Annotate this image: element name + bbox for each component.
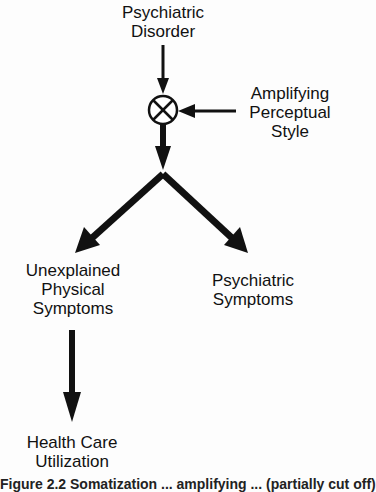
node-psychiatric-disorder: Psychiatric Disorder [113, 3, 213, 41]
arrow-to-unexplained [75, 174, 163, 253]
node-unexplained-physical-symptoms: Unexplained Physical Symptoms [18, 261, 128, 318]
node-psychiatric-symptoms: Psychiatric Symptoms [203, 271, 303, 309]
label-line: Style [243, 122, 337, 141]
label-line: Health Care [17, 433, 127, 452]
arrow-multiplier-down [155, 124, 171, 170]
label-line: Symptoms [18, 299, 128, 318]
node-amplifying-perceptual-style: Amplifying Perceptual Style [243, 84, 337, 141]
node-health-care-utilization: Health Care Utilization [17, 433, 127, 471]
label-line: Unexplained [18, 261, 128, 280]
label-line: Physical [18, 280, 128, 299]
figure-caption: Figure 2.2 Somatization ... amplifying .… [0, 476, 376, 492]
arrow-to-psych-symptoms [163, 174, 248, 253]
label-line: Psychiatric [203, 271, 303, 290]
arrow-amplifying-to-multiplier [178, 104, 236, 118]
label-line: Disorder [113, 22, 213, 41]
label-line: Symptoms [203, 290, 303, 309]
multiplier-icon [149, 96, 177, 124]
arrow-disorder-to-multiplier [157, 45, 169, 94]
label-line: Psychiatric [113, 3, 213, 22]
label-line: Utilization [17, 452, 127, 471]
label-line: Perceptual [243, 103, 337, 122]
arrow-to-utilization [63, 330, 81, 422]
label-line: Amplifying [243, 84, 337, 103]
